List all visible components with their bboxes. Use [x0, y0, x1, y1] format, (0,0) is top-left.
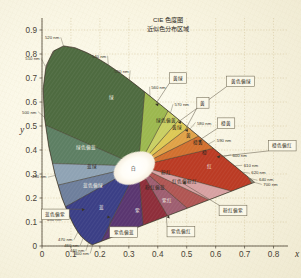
region-label: 绿色偏蓝 — [76, 144, 96, 151]
wavelength-label: 620 nm — [251, 170, 266, 175]
y-tick-label: 0.5 — [26, 122, 38, 131]
x-tick-label: 0 — [40, 250, 45, 259]
wavelength-label: 540 nm — [92, 54, 107, 59]
region-label: 粉红 — [161, 169, 171, 176]
callout-leader — [198, 128, 217, 141]
wavelength-label: 590 nm — [217, 138, 232, 143]
region-label: 橙黄 — [193, 139, 203, 146]
x-tick-label: 0.7 — [239, 250, 251, 259]
y-tick-label: 0.9 — [26, 26, 38, 35]
x-tick-label: 0.6 — [210, 250, 222, 259]
cie-chromaticity-figure: 00.10.20.30.40.50.60.70.800.10.20.30.40.… — [0, 0, 301, 278]
wavelength-label: 560 nm — [151, 85, 166, 90]
callout-label: 黄绿 — [173, 75, 183, 82]
callout-label: 蓝色偏紫 — [45, 211, 65, 218]
region-label: 蓝 — [99, 204, 104, 210]
y-axis-label: y — [19, 125, 25, 135]
callout-label: 橙黄 — [221, 120, 231, 127]
x-tick-label: 0.8 — [268, 250, 280, 259]
y-tick-label: 0 — [32, 242, 37, 251]
wavelength-label: 500 nm — [22, 110, 37, 115]
region-label: 粉红偏蓝 — [145, 184, 165, 191]
wavelength-label: 550 nm — [114, 69, 129, 74]
wavelength-label: 470 nm — [58, 237, 73, 242]
title-line-2: 近似色分布区域 — [147, 25, 189, 33]
x-axis-label: x — [294, 249, 300, 259]
x-tick-label: 0.5 — [181, 250, 193, 259]
y-tick-label: 0.6 — [26, 98, 38, 107]
region-label: 绿色偏黄 — [156, 117, 176, 124]
y-tick-label: 0.1 — [26, 218, 38, 227]
y-tick-label: 0.2 — [26, 194, 38, 203]
region-label: 黄 — [186, 132, 191, 139]
x-tick-label: 0.3 — [123, 250, 135, 259]
callout-label: 橙色偏红 — [272, 142, 292, 149]
wavelength-label: 510 nm — [25, 56, 40, 61]
wavelength-label: 520 nm — [45, 35, 60, 40]
callout-label: 紫色偏蓝 — [114, 229, 134, 236]
region-label: 蓝绿 — [87, 163, 97, 169]
chart-title: CIE 色度图近似色分布区域 — [147, 16, 189, 33]
title-line-1: CIE 色度图 — [153, 16, 183, 24]
region-label: 橙 — [202, 149, 207, 156]
wavelength-label: 610 nm — [244, 163, 259, 168]
region-label: 紫 — [135, 208, 140, 213]
callout-label: 黄色偏绿 — [231, 78, 251, 85]
wavelength-label: 570 nm — [175, 102, 190, 107]
wavelength-label: 700 nm — [263, 182, 278, 187]
chromaticity-plot: 00.10.20.30.40.50.60.70.800.10.20.30.40.… — [0, 0, 301, 278]
wavelength-label: 580 nm — [197, 121, 212, 126]
region-label: 蓝色偏绿 — [83, 182, 103, 189]
region-label: 红 — [207, 163, 212, 169]
callout-label: 紫色偏红 — [171, 228, 191, 235]
y-tick-label: 0.7 — [26, 74, 38, 83]
region-label: 紫红 — [162, 197, 172, 203]
wavelength-label: 400 nm — [74, 251, 89, 256]
callout-label: 粉红偏紫 — [223, 207, 243, 214]
y-tick-label: 0.4 — [26, 146, 38, 155]
callout-label: 黄 — [200, 100, 205, 107]
x-tick-label: 0.2 — [94, 250, 106, 259]
region-label: 黄绿 — [172, 124, 182, 131]
wavelength-label: 490 nm — [32, 174, 47, 179]
callout-leader — [166, 217, 167, 226]
region-label: 绿 — [109, 94, 114, 100]
region-label: 白 — [131, 165, 136, 172]
x-tick-label: 0.4 — [152, 250, 164, 259]
